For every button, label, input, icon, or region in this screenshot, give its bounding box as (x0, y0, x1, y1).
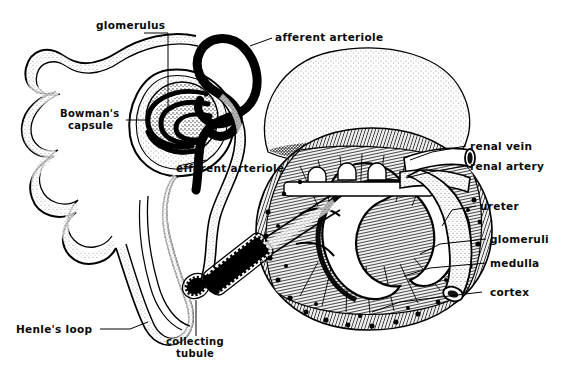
diagram-canvas: glomerulus afferent arteriole Bowman's c… (0, 0, 564, 379)
label-bowmans-capsule-line1: Bowman's (60, 108, 119, 119)
label-ureter: ureter (480, 200, 519, 212)
label-glomerulus: glomerulus (96, 19, 165, 31)
label-collecting-tubule-line1: collecting (166, 336, 224, 347)
label-henles-loop: Henle's loop (16, 323, 93, 335)
kidney-nephron-illustration: glomerulus afferent arteriole Bowman's c… (0, 0, 564, 379)
label-afferent-arteriole: afferent arteriole (275, 31, 383, 43)
label-efferent-arteriole: efferent arteriole (176, 162, 284, 174)
label-renal-vein: renal vein (470, 140, 532, 152)
label-collecting-tubule-line2: tubule (176, 348, 214, 359)
label-cortex: cortex (490, 286, 529, 298)
label-glomeruli: glomeruli (490, 233, 549, 245)
label-medulla: medulla (490, 257, 539, 269)
label-renal-artery: renal artery (470, 160, 544, 172)
label-bowmans-capsule-line2: capsule (68, 120, 113, 131)
